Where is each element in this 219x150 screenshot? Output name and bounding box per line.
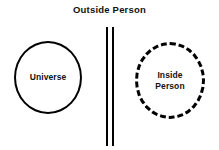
diagram-title: Outside Person	[0, 4, 219, 16]
inside-person-label: Inside Person	[155, 70, 184, 92]
barrier-line-right	[112, 27, 114, 146]
universe-circle: Universe	[14, 41, 82, 114]
universe-label: Universe	[30, 72, 67, 83]
diagram-canvas: Outside Person Universe Inside Person	[0, 0, 219, 150]
barrier-double-line	[105, 27, 115, 146]
barrier-line-left	[106, 27, 108, 146]
inside-person-circle: Inside Person	[135, 42, 205, 119]
inside-person-label-line-2: Person	[155, 81, 184, 92]
inside-person-label-line-1: Inside	[155, 70, 184, 81]
